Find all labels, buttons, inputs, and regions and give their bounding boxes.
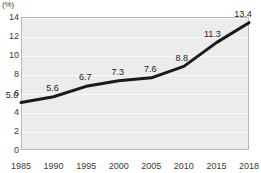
gridline xyxy=(22,18,248,19)
data-point-label: 7.6 xyxy=(137,65,163,74)
data-point-label: 7.3 xyxy=(105,68,131,77)
x-axis-tick-label: 1995 xyxy=(71,161,101,171)
x-axis-tick-label: 2015 xyxy=(201,161,231,171)
y-axis-tick-label: 14 xyxy=(0,13,19,22)
data-point-label: 5.6 xyxy=(40,84,66,93)
y-axis-tick-label: 8 xyxy=(0,70,19,79)
gridline xyxy=(22,75,248,76)
y-axis-tick-label: 2 xyxy=(0,127,19,136)
x-axis-tick-label: 1990 xyxy=(39,161,69,171)
y-axis-tick-label: 10 xyxy=(0,51,19,60)
data-point-label: 8.8 xyxy=(169,54,195,63)
gridline xyxy=(22,56,248,57)
y-axis-tick-label: 12 xyxy=(0,32,19,41)
y-axis-tick-label: 0 xyxy=(0,146,19,155)
gridline xyxy=(22,113,248,114)
x-axis-tick-label: 2010 xyxy=(169,161,199,171)
x-axis-tick-label: 2000 xyxy=(104,161,134,171)
gridline xyxy=(22,94,248,95)
x-axis-tick-label: 2005 xyxy=(136,161,166,171)
line-chart: (%) 02468101214 5.05.66.77.37.68.811.313… xyxy=(0,0,261,173)
x-axis: 19851990199520002005201020152018 xyxy=(0,161,261,173)
data-point-label: 5.0 xyxy=(0,91,25,100)
y-axis: 02468101214 xyxy=(0,0,19,173)
x-axis-tick-label: 1985 xyxy=(6,161,36,171)
y-axis-tick-label: 4 xyxy=(0,108,19,117)
data-point-label: 11.3 xyxy=(199,30,225,39)
x-axis-tick-label: 2018 xyxy=(234,161,261,171)
data-point-label: 6.7 xyxy=(72,73,98,82)
data-point-label: 13.4 xyxy=(230,10,256,19)
gridline xyxy=(22,132,248,133)
